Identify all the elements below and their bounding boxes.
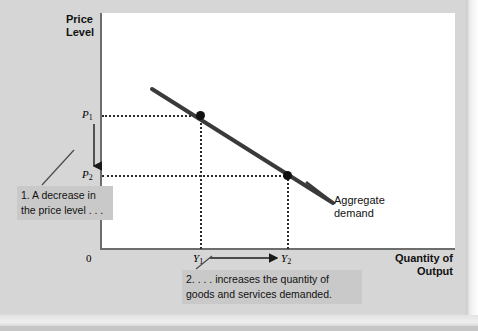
tick-label-y2-subscript: 2 [287,257,291,266]
figure-root: Price Level Quantity of Output 0 P1 P2 Y… [0,0,478,331]
guide-line-p2 [102,175,289,177]
tick-label-p1-letter: P [82,108,89,120]
equilibrium-point-1 [196,111,205,120]
y-axis-title-line2: Level [66,26,94,38]
aggregate-demand-label-line2: demand [334,207,374,219]
y-axis-title-line1: Price [66,13,93,25]
aggregate-demand-label-line1: Aggregate [334,194,385,206]
plot-area [102,13,455,249]
caption-price-decrease: 1. A decrease in the price level . . . [17,186,113,220]
x-axis-title-line1: Quantity of [395,252,453,264]
guide-line-y1 [200,115,202,249]
tick-label-y2: Y2 [281,252,291,266]
aggregate-demand-label: Aggregate demand [334,194,385,220]
caption-quantity-increase: 2. . . . increases the quantity of goods… [182,270,362,304]
tick-label-p2-subscript: 2 [89,173,93,182]
tick-label-y1-subscript: 1 [199,257,203,266]
guide-line-y2 [287,175,289,249]
tick-label-p1: P1 [82,108,93,122]
x-axis-title-line2: Output [417,265,453,277]
x-axis-line [100,248,455,250]
origin-label: 0 [86,252,92,264]
tick-label-p1-subscript: 1 [89,113,93,122]
equilibrium-point-2 [283,171,292,180]
x-axis-title: Quantity of Output [355,252,453,278]
tick-label-y1: Y1 [193,252,203,266]
tick-label-p2-letter: P [82,168,89,180]
tick-label-p2: P2 [82,168,93,182]
guide-line-p1 [102,115,202,117]
figure-bottom-strip [0,326,478,331]
figure-right-edge [466,0,478,331]
y-axis-title: Price Level [66,13,98,39]
